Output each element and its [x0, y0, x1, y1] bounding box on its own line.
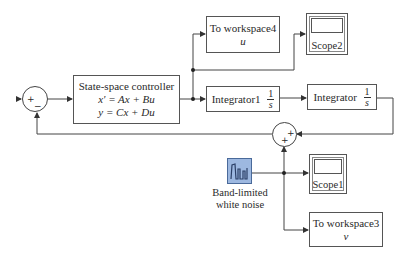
- sum-block-1[interactable]: + −: [22, 86, 48, 112]
- scope2-screen: [311, 18, 343, 33]
- sum1-minus-sign: −: [34, 102, 42, 111]
- state-space-controller-block[interactable]: State-space controller x' = Ax + Bu y = …: [73, 75, 180, 124]
- integrator-block[interactable]: Integrator 1 s: [307, 84, 377, 110]
- to-workspace4-variable: u: [207, 35, 279, 48]
- controller-output-equation: y = Cx + Du: [74, 106, 179, 119]
- band-limited-white-noise-block[interactable]: [227, 158, 252, 184]
- scope1-block[interactable]: Scope1: [309, 154, 347, 194]
- to-workspace4-title: To workspace4: [207, 22, 279, 35]
- noise-caption-line2: white noise: [207, 199, 273, 211]
- integrator1-transfer-function: 1 s: [267, 89, 274, 110]
- integrator-transfer-function: 1 s: [364, 87, 371, 108]
- to-workspace4-block[interactable]: To workspace4 u: [206, 16, 280, 53]
- scope1-label: Scope1: [310, 179, 346, 190]
- controller-title: State-space controller: [74, 80, 179, 93]
- to-workspace3-title: To workspace3: [310, 217, 382, 230]
- to-workspace3-block[interactable]: To workspace3 v: [309, 212, 383, 247]
- integrator1-block[interactable]: Integrator1 1 s: [206, 86, 280, 112]
- sum2-bottom-plus-sign: +: [281, 136, 289, 145]
- scope2-block[interactable]: Scope2: [306, 13, 348, 55]
- controller-state-equation: x' = Ax + Bu: [74, 93, 179, 106]
- noise-caption: Band-limited white noise: [207, 187, 273, 211]
- scope1-screen: [314, 159, 342, 174]
- noise-waveform-icon: [228, 159, 251, 183]
- to-workspace3-variable: v: [310, 230, 382, 243]
- integrator1-denominator: s: [267, 100, 274, 110]
- integrator1-label: Integrator1: [212, 93, 261, 105]
- noise-caption-line1: Band-limited: [207, 187, 273, 199]
- sum-block-2[interactable]: + +: [272, 122, 297, 147]
- integrator-label: Integrator: [313, 91, 356, 103]
- integrator-denominator: s: [364, 98, 371, 108]
- scope2-label: Scope2: [307, 40, 347, 51]
